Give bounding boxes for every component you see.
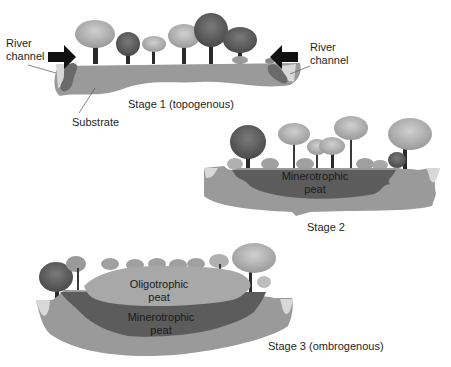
stage2-trees (227, 116, 432, 172)
stage1-right-river-label: River channel (310, 41, 349, 67)
stage1-substrate (55, 63, 301, 96)
stage3-minerotrophic-label: Minerotrophic peat (124, 311, 198, 337)
stage1-trees (75, 13, 275, 64)
stage3-title: Stage 3 (ombrogenous) (268, 340, 384, 353)
stage1-left-river-label: River channel (6, 37, 45, 63)
stage3-oligotrophic-label: Oligotrophic peat (124, 278, 194, 304)
substrate-label: Substrate (72, 116, 119, 129)
peat-formation-diagram (0, 0, 451, 367)
stage1-title: Stage 1 (topogenous) (128, 98, 234, 111)
stage2-scene (204, 116, 440, 216)
stage2-title: Stage 2 (307, 221, 345, 234)
stage2-peat-label: Minerotrophic peat (280, 170, 350, 196)
